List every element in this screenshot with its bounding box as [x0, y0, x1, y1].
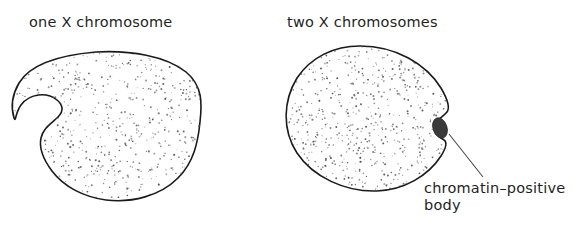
sex-chromatin-figure: one X chromosome two X chromosomes chrom…: [0, 0, 582, 229]
chromatin-positive-body-annotation: chromatin–positive body: [424, 180, 582, 214]
one-x-nucleus-outline: [12, 52, 201, 201]
annotation-leader-line: [449, 134, 483, 177]
annotation-line-2: body: [424, 197, 582, 214]
annotation-line-1: chromatin–positive: [424, 180, 582, 197]
label-two-x-chromosomes: two X chromosomes: [287, 14, 438, 30]
label-one-x-chromosome: one X chromosome: [29, 14, 172, 30]
